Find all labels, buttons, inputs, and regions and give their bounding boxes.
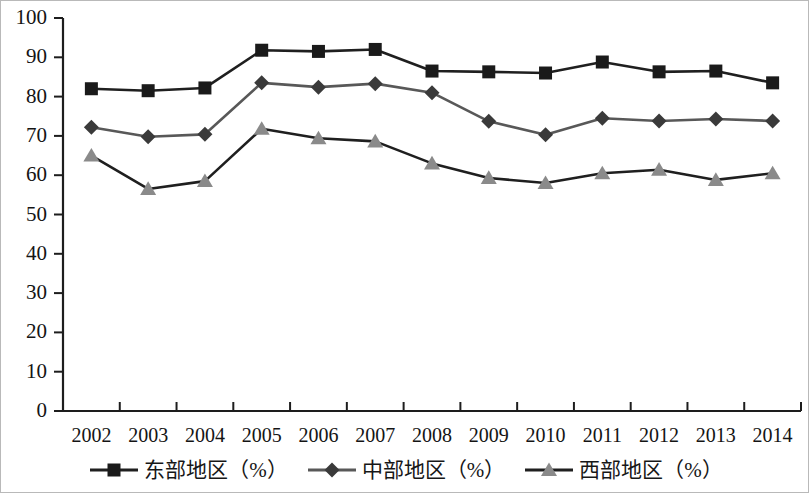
x-axis-ticks	[63, 402, 801, 411]
legend-label: 中部地区（%）	[362, 460, 506, 481]
x-axis-tick-label: 2006	[290, 425, 347, 445]
x-axis-tick-label: 2007	[347, 425, 404, 445]
x-axis-tick-label: 2008	[404, 425, 461, 445]
square-marker-icon	[426, 65, 439, 78]
diamond-marker-icon	[765, 113, 780, 128]
diamond-marker-icon	[481, 114, 496, 129]
x-axis-tick-label: 2013	[687, 425, 744, 445]
square-marker-icon	[255, 44, 268, 57]
y-axis-tick-label: 50	[1, 204, 47, 225]
legend-entry[interactable]: 中部地区（%）	[306, 459, 506, 481]
square-marker-icon	[312, 45, 325, 58]
y-axis-ticks	[54, 18, 63, 411]
x-axis-tick-label: 2002	[63, 425, 120, 445]
square-marker-icon	[709, 65, 722, 78]
diamond-marker-icon	[652, 113, 667, 128]
legend-label: 西部地区（%）	[579, 460, 723, 481]
x-axis-tick-label: 2009	[460, 425, 517, 445]
diamond-marker-icon	[141, 129, 156, 144]
x-axis-tick-label: 2012	[631, 425, 688, 445]
y-axis-tick-label: 10	[1, 361, 47, 382]
square-marker-icon	[108, 464, 121, 477]
square-marker-icon	[142, 84, 155, 97]
x-axis-tick-label: 2011	[574, 425, 631, 445]
y-axis-tick-label: 30	[1, 282, 47, 303]
legend-marker-swatch	[523, 459, 575, 481]
diamond-marker-icon	[708, 112, 723, 127]
diamond-marker-icon	[324, 463, 339, 478]
square-marker-icon	[369, 43, 382, 56]
diamond-marker-icon	[595, 111, 610, 126]
x-axis-tick-label: 2010	[517, 425, 574, 445]
chart-figure: 0102030405060708090100 20022003200420052…	[0, 0, 809, 493]
diamond-marker-icon	[368, 76, 383, 91]
legend-marker-swatch	[306, 459, 358, 481]
x-axis-tick-label: 2014	[744, 425, 801, 445]
x-axis-tick-label: 2003	[120, 425, 177, 445]
legend-entry[interactable]: 东部地区（%）	[88, 459, 288, 481]
y-axis-tick-label: 0	[1, 400, 47, 421]
line-chart-plot	[1, 1, 809, 493]
square-marker-icon	[766, 76, 779, 89]
y-axis-tick-label: 80	[1, 86, 47, 107]
x-axis-tick-label: 2005	[233, 425, 290, 445]
triangle-marker-icon	[83, 148, 99, 162]
chart-legend: 东部地区（%）中部地区（%）西部地区（%）	[1, 459, 809, 481]
diamond-marker-icon	[311, 80, 326, 95]
y-axis-tick-label: 60	[1, 164, 47, 185]
triangle-marker-icon	[254, 121, 270, 135]
square-marker-icon	[596, 56, 609, 69]
diamond-marker-icon	[425, 85, 440, 100]
diamond-marker-icon	[84, 120, 99, 135]
diamond-marker-icon	[538, 127, 553, 142]
legend-label: 东部地区（%）	[144, 460, 288, 481]
triangle-marker-icon	[765, 166, 781, 180]
square-marker-icon	[198, 81, 211, 94]
square-marker-icon	[85, 82, 98, 95]
square-marker-icon	[653, 65, 666, 78]
square-marker-icon	[539, 67, 552, 80]
y-axis-tick-label: 90	[1, 46, 47, 67]
y-axis-tick-label: 70	[1, 125, 47, 146]
legend-entry[interactable]: 西部地区（%）	[523, 459, 723, 481]
square-marker-icon	[482, 65, 495, 78]
y-axis-tick-label: 20	[1, 321, 47, 342]
y-axis-tick-label: 40	[1, 243, 47, 264]
legend-marker-swatch	[88, 459, 140, 481]
x-axis-tick-label: 2004	[177, 425, 234, 445]
y-axis-tick-label: 100	[1, 7, 47, 28]
